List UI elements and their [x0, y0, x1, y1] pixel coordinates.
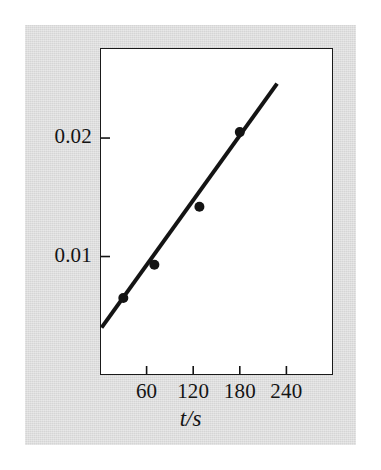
figure-root: 0.010.02 60120180240 t/s [0, 0, 381, 470]
plot-area-frame [100, 48, 333, 375]
y-tick-label: 0.02 [0, 124, 92, 149]
y-tick-label: 0.01 [0, 243, 92, 268]
x-tick-label: 240 [256, 379, 316, 404]
x-axis-title: t/s [0, 406, 381, 432]
